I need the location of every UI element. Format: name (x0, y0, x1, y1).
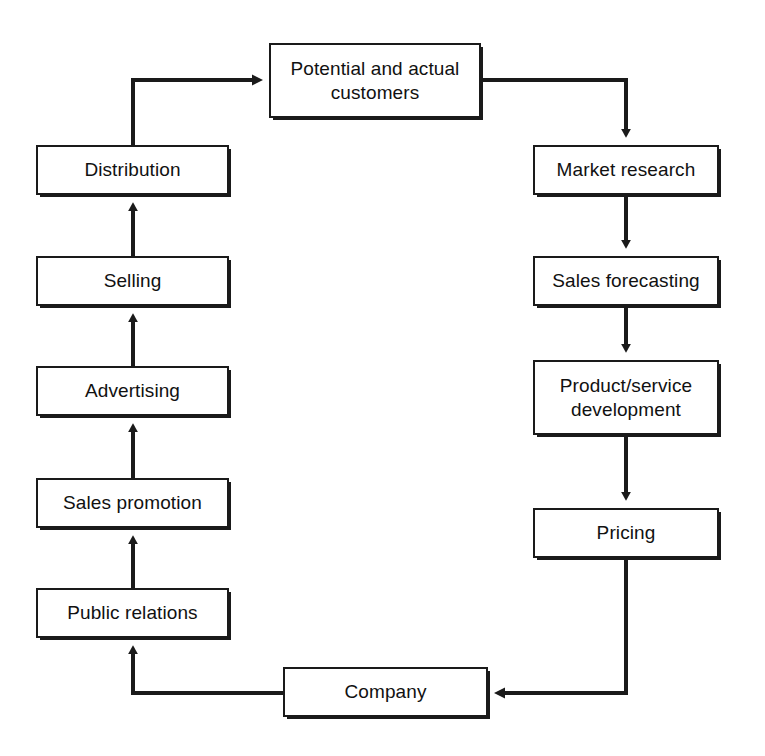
node-label: Distribution (78, 158, 186, 182)
node-label: Market research (551, 158, 702, 182)
node-pricing[interactable]: Pricing (533, 508, 719, 558)
node-label: Product/service development (554, 374, 698, 422)
node-label: Sales promotion (57, 491, 208, 515)
edge-company-to-public-relations (133, 650, 283, 693)
node-company[interactable]: Company (283, 667, 488, 717)
node-label: Selling (98, 269, 168, 293)
node-selling[interactable]: Selling (36, 256, 229, 306)
node-product-service-development[interactable]: Product/service development (533, 360, 719, 435)
diagram-canvas: Potential and actual customers Distribut… (0, 0, 765, 756)
node-label: Pricing (591, 521, 662, 545)
edge-distribution-to-customers (133, 80, 257, 145)
node-label: Public relations (61, 601, 203, 625)
node-distribution[interactable]: Distribution (36, 145, 229, 195)
edge-pricing-to-company (500, 558, 626, 693)
node-label: Company (338, 680, 432, 704)
node-label: Advertising (79, 379, 186, 403)
node-sales-forecasting[interactable]: Sales forecasting (533, 256, 719, 306)
node-sales-promotion[interactable]: Sales promotion (36, 478, 229, 528)
edge-customers-to-market-research (481, 80, 626, 133)
node-public-relations[interactable]: Public relations (36, 588, 229, 638)
node-potential-and-actual-customers[interactable]: Potential and actual customers (269, 43, 481, 118)
node-market-research[interactable]: Market research (533, 145, 719, 195)
node-label: Potential and actual customers (285, 57, 466, 105)
node-advertising[interactable]: Advertising (36, 366, 229, 416)
node-label: Sales forecasting (546, 269, 705, 293)
